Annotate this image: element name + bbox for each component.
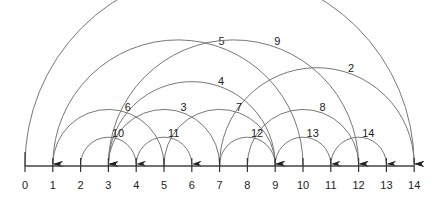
arc-label: 14 [362, 127, 374, 139]
arc-label: 9 [274, 35, 280, 47]
arc-label: 5 [219, 35, 225, 47]
arc-label: 6 [125, 101, 131, 113]
arc-label: 13 [307, 127, 319, 139]
arc-5 [53, 40, 303, 166]
axis-label: 7 [217, 179, 223, 191]
axis-label: 13 [380, 179, 392, 191]
axis-label: 8 [244, 179, 250, 191]
arc-label: 11 [168, 127, 179, 139]
axis-label: 3 [105, 179, 111, 191]
arc-label: 4 [218, 75, 224, 87]
arc-label: 10 [112, 127, 124, 139]
arcs-group: 1234567891011121314 [25, 0, 414, 166]
axis-label: 14 [408, 179, 420, 191]
axis-label: 2 [78, 179, 84, 191]
axis-label: 6 [189, 179, 195, 191]
axis-label: 5 [161, 179, 167, 191]
axis-label: 12 [352, 179, 364, 191]
axis-label: 4 [133, 179, 139, 191]
axis-label: 1 [50, 179, 56, 191]
axis-label: 9 [272, 179, 278, 191]
axis-label: 11 [325, 179, 336, 191]
arc-label: 8 [319, 101, 325, 113]
arc-label: 12 [251, 127, 263, 139]
arc-label: 7 [236, 101, 242, 113]
arc-label: 3 [180, 101, 186, 113]
arc-label: 2 [348, 62, 354, 74]
axis-label: 0 [22, 179, 28, 191]
axis-label: 10 [297, 179, 309, 191]
arc-diagram: 1234567891011121314 01234567891011121314 [0, 0, 437, 206]
